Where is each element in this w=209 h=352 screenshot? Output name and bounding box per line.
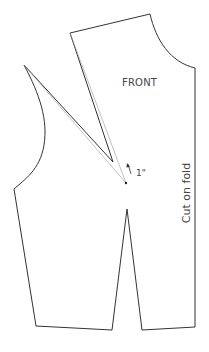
- front-label: FRONT: [122, 77, 157, 88]
- bust-point-marker: [125, 182, 127, 184]
- pattern-diagram: [0, 0, 209, 352]
- arrowhead-icon: [127, 163, 131, 168]
- bodice-outline: [14, 14, 195, 330]
- dart-guide-line-right: [70, 33, 126, 183]
- cut-on-fold-label: Cut on fold: [180, 163, 193, 223]
- dimension-label: 1": [136, 168, 146, 178]
- dart-guide-line-left: [24, 65, 126, 183]
